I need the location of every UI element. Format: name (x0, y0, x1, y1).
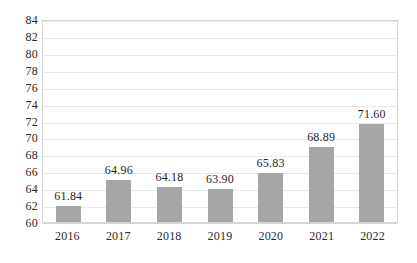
bar-slot: 68.89 (296, 21, 347, 222)
bar-value-label: 65.83 (257, 157, 285, 169)
bar-value-label: 68.89 (307, 131, 335, 143)
y-axis-tick-label: 60 (0, 217, 38, 229)
y-axis-tick-label: 78 (0, 65, 38, 77)
x-axis-tick-label: 2022 (347, 230, 398, 242)
bar-slot: 64.18 (144, 21, 195, 222)
bar-slot: 71.60 (346, 21, 397, 222)
bar-slot: 64.96 (94, 21, 145, 222)
x-axis-tick-label: 2016 (42, 230, 93, 242)
gridline (43, 223, 397, 224)
x-axis-tick-label: 2020 (245, 230, 296, 242)
y-axis-tick-label: 82 (0, 31, 38, 43)
bars-layer: 61.8464.9664.1863.9065.8368.8971.60 (43, 21, 397, 222)
bar[interactable] (309, 147, 334, 222)
y-axis-tick-label: 66 (0, 166, 38, 178)
bar-value-label: 71.60 (358, 108, 386, 120)
bar-value-label: 64.18 (155, 171, 183, 183)
y-axis-tick-label: 80 (0, 48, 38, 60)
bar-value-label: 61.84 (54, 190, 82, 202)
y-axis-tick-label: 84 (0, 14, 38, 26)
y-axis-tick-label: 72 (0, 116, 38, 128)
plot-area: 61.8464.9664.1863.9065.8368.8971.60 (42, 20, 398, 223)
bar-slot: 65.83 (245, 21, 296, 222)
bar[interactable] (106, 180, 131, 222)
x-axis: 2016201720182019202020212022 (42, 230, 398, 242)
x-axis-tick-label: 2018 (144, 230, 195, 242)
y-axis-tick-label: 62 (0, 200, 38, 212)
bar-value-label: 63.90 (206, 173, 234, 185)
y-axis: 84828078767472706866646260 (0, 20, 38, 223)
y-axis-tick-label: 74 (0, 99, 38, 111)
bar-value-label: 64.96 (105, 164, 133, 176)
y-axis-tick-label: 68 (0, 149, 38, 161)
bar-chart: 84828078767472706866646260 61.8464.9664.… (0, 0, 417, 263)
y-axis-tick-label: 70 (0, 132, 38, 144)
y-axis-tick-label: 76 (0, 82, 38, 94)
bar[interactable] (157, 187, 182, 222)
bar[interactable] (208, 189, 233, 222)
bar-slot: 61.84 (43, 21, 94, 222)
x-axis-tick-label: 2017 (93, 230, 144, 242)
bar[interactable] (258, 173, 283, 222)
bar[interactable] (56, 206, 81, 222)
bar[interactable] (359, 124, 384, 222)
y-axis-tick-label: 64 (0, 183, 38, 195)
x-axis-tick-label: 2021 (296, 230, 347, 242)
x-axis-tick-label: 2019 (195, 230, 246, 242)
bar-slot: 63.90 (195, 21, 246, 222)
